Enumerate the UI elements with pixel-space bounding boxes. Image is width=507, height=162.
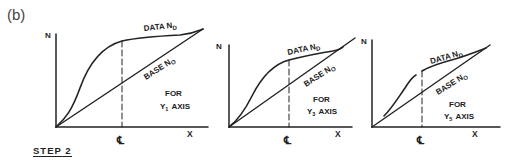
data-curve-lower	[384, 75, 416, 116]
x-axis-label: X	[335, 129, 341, 139]
diagram-canvas: N X ℄ DATA ND BASE NO FOR Y1AXIS N X ℄ D…	[0, 0, 507, 162]
base-curve-label: BASE NO	[434, 70, 469, 97]
axis-caption-line2: Y3AXIS	[307, 107, 338, 117]
base-curve	[56, 29, 203, 127]
axis-caption-line1: FOR	[313, 95, 330, 104]
base-curve-label: BASE NO	[302, 62, 337, 90]
y-axis-label: N	[45, 31, 51, 40]
x-axis-label: X	[472, 129, 478, 139]
panel-1	[56, 29, 208, 127]
y-axis-label: N	[216, 42, 222, 51]
axis-caption-line1: FOR	[449, 100, 466, 109]
panel-3	[372, 40, 500, 127]
centerline-label: ℄	[416, 134, 425, 146]
centerline-label: ℄	[116, 134, 125, 146]
centerline-label: ℄	[283, 134, 292, 146]
step-label: STEP 2	[33, 145, 72, 157]
axis-caption-line2: Y5AXIS	[444, 112, 475, 122]
data-curve-label: DATA ND	[429, 48, 464, 67]
x-axis-label: X	[187, 129, 193, 139]
data-curve-label: DATA ND	[287, 41, 322, 58]
y-axis-label: N	[361, 37, 367, 46]
base-curve-label: BASE NO	[142, 55, 177, 83]
axis-caption-line2: Y1AXIS	[160, 102, 191, 112]
data-curve-label: DATA ND	[143, 21, 178, 34]
axis-caption-line1: FOR	[165, 89, 182, 98]
